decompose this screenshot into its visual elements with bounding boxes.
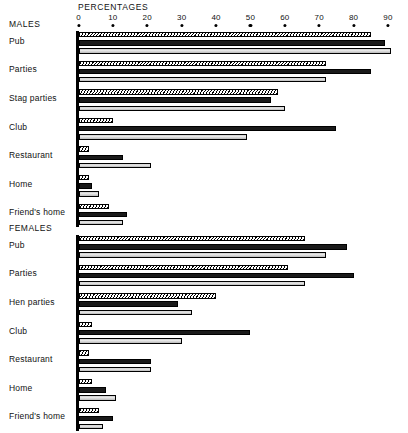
bar-females-4-hatched [79,350,89,355]
bar-males-0-light-grey [79,48,392,53]
bar-males-5-light-grey [79,191,100,196]
category-label-females-6: Friend's home [9,411,65,421]
x-tick-dot-80 [352,24,355,27]
bar-females-6-solid-black [79,416,113,421]
category-label-males-2: Stag parties [9,93,57,103]
category-label-males-4: Restaurant [9,150,53,160]
x-tick-label-30: 30 [177,13,186,22]
x-tick-label-80: 80 [349,13,358,22]
bar-females-6-hatched [79,408,100,413]
bar-females-2-solid-black [79,301,179,306]
bar-females-3-light-grey [79,338,182,343]
bar-males-2-light-grey [79,106,285,111]
bar-males-3-hatched [79,118,113,123]
axis-title: PERCENTAGES [78,2,148,12]
bar-males-2-solid-black [79,97,272,102]
x-tick-label-0: 0 [76,13,81,22]
category-label-males-3: Club [9,122,27,132]
category-label-females-1: Parties [9,268,37,278]
category-label-males-5: Home [9,179,32,189]
bar-females-5-hatched [79,379,93,384]
x-tick-label-10: 10 [108,13,117,22]
x-tick-label-40: 40 [211,13,220,22]
bar-males-1-light-grey [79,77,327,82]
bar-females-1-hatched [79,265,289,270]
bar-females-5-solid-black [79,387,107,392]
bar-males-1-solid-black [79,69,371,74]
bar-males-1-hatched [79,61,327,66]
x-tick-label-20: 20 [143,13,152,22]
bar-males-3-solid-black [79,126,337,131]
x-tick-dot-50 [249,24,252,27]
x-tick-dot-10 [111,24,114,27]
bar-males-2-hatched [79,89,278,94]
bar-females-0-solid-black [79,244,347,249]
bar-males-5-hatched [79,175,89,180]
x-tick-dot-0 [77,24,80,27]
category-label-females-5: Home [9,383,32,393]
category-label-females-0: Pub [9,240,25,250]
axis-line-males [76,31,79,227]
x-tick-dot-70 [318,24,321,27]
bar-females-1-light-grey [79,281,306,286]
bar-females-0-light-grey [79,252,327,257]
category-label-males-0: Pub [9,36,25,46]
bar-males-6-light-grey [79,220,124,225]
category-label-females-2: Hen parties [9,297,55,307]
bar-females-4-light-grey [79,367,151,372]
x-tick-label-50: 50 [246,13,255,22]
category-label-males-1: Parties [9,64,37,74]
bar-males-4-solid-black [79,155,124,160]
x-tick-label-70: 70 [315,13,324,22]
x-tick-dot-90 [386,24,389,27]
axis-line-females [76,235,79,431]
bar-females-2-hatched [79,293,217,298]
bar-females-1-solid-black [79,273,354,278]
bar-males-0-solid-black [79,40,385,45]
bar-females-3-hatched [79,322,93,327]
x-tick-dot-30 [180,24,183,27]
bar-males-0-hatched [79,32,371,37]
group-title-males: MALES [9,19,40,29]
bar-females-4-solid-black [79,359,151,364]
category-label-females-4: Restaurant [9,354,53,364]
bar-males-3-light-grey [79,134,248,139]
bar-females-5-light-grey [79,395,117,400]
bar-chart: PERCENTAGES 0102030405060708090 MALES FE… [0,0,408,433]
x-tick-label-90: 90 [383,13,392,22]
bar-females-3-solid-black [79,330,251,335]
category-label-males-6: Friend's home [9,207,65,217]
x-tick-dot-40 [214,24,217,27]
bar-males-4-light-grey [79,163,151,168]
bar-females-0-hatched [79,236,306,241]
group-title-females: FEMALES [9,223,52,233]
category-label-females-3: Club [9,326,27,336]
bar-males-5-solid-black [79,183,93,188]
bar-males-6-hatched [79,204,110,209]
x-tick-label-60: 60 [280,13,289,22]
bar-females-6-light-grey [79,424,103,429]
bar-females-2-light-grey [79,310,192,315]
x-tick-dot-20 [146,24,149,27]
x-tick-dot-60 [283,24,286,27]
bar-males-4-hatched [79,146,89,151]
bar-males-6-solid-black [79,212,127,217]
